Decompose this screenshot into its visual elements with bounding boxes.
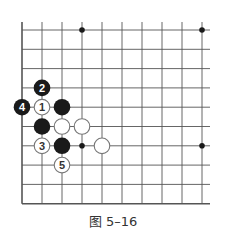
grid-lines xyxy=(22,22,210,204)
star-point-icon xyxy=(79,27,85,33)
black-stone xyxy=(34,118,51,135)
white-stone xyxy=(74,119,90,135)
black-stone-2: 2 xyxy=(34,80,51,97)
black-stone xyxy=(54,138,71,155)
star-point-icon xyxy=(199,143,205,149)
move-number: 5 xyxy=(59,159,65,171)
white-stone-5: 5 xyxy=(54,157,70,173)
move-number: 3 xyxy=(39,140,45,152)
star-point-icon xyxy=(79,143,85,149)
white-stone-3: 3 xyxy=(34,138,50,154)
move-number: 1 xyxy=(39,101,45,113)
move-number: 2 xyxy=(39,82,45,94)
black-stone xyxy=(54,99,71,116)
go-board: 24135 xyxy=(0,0,226,210)
white-stone xyxy=(54,119,70,135)
white-stone-1: 1 xyxy=(34,99,50,115)
move-number: 4 xyxy=(19,101,26,113)
star-point-icon xyxy=(199,27,205,33)
figure-caption: 图 5–16 xyxy=(0,211,226,230)
white-stone xyxy=(94,138,110,154)
black-stone-4: 4 xyxy=(14,99,31,116)
